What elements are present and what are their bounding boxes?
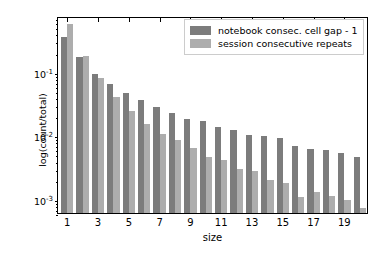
x-tick-label: 11 bbox=[215, 218, 228, 228]
x-axis-label: size bbox=[57, 232, 368, 243]
y-tick-mark-minor bbox=[56, 171, 58, 172]
x-tick-label: 19 bbox=[338, 218, 351, 228]
bar-session-5 bbox=[129, 111, 135, 213]
y-tick-mark-minor bbox=[56, 107, 58, 108]
legend-swatch-icon bbox=[190, 26, 211, 35]
x-tick-mark bbox=[129, 18, 130, 22]
y-tick-mark bbox=[55, 201, 59, 202]
x-tick-label: 1 bbox=[64, 218, 70, 228]
y-tick-mark bbox=[55, 74, 59, 75]
y-tick-mark-minor bbox=[56, 215, 58, 216]
y-tick-mark-minor bbox=[56, 207, 58, 208]
x-tick-label: 17 bbox=[307, 218, 320, 228]
bar-session-11 bbox=[221, 160, 227, 213]
legend-label: session consecutive repeats bbox=[218, 39, 352, 49]
x-tick-label: 9 bbox=[187, 218, 193, 228]
bar-session-6 bbox=[144, 124, 150, 213]
y-tick-mark-minor bbox=[56, 140, 58, 141]
bar-session-3 bbox=[98, 78, 104, 213]
y-tick-mark bbox=[55, 137, 59, 138]
bar-session-14 bbox=[267, 180, 273, 213]
bar-session-17 bbox=[314, 192, 320, 213]
y-tick-mark-minor bbox=[56, 147, 58, 148]
bar-session-16 bbox=[298, 197, 304, 213]
y-tick-mark-minor bbox=[56, 29, 58, 30]
y-tick-mark-minor bbox=[56, 118, 58, 119]
bar-session-2 bbox=[83, 56, 89, 213]
legend-label: notebook consec. cell gap - 1 bbox=[218, 26, 357, 36]
y-tick-mark-minor bbox=[56, 84, 58, 85]
y-tick-mark-minor bbox=[56, 55, 58, 56]
y-tick-mark-minor bbox=[56, 77, 58, 78]
legend-item-1: session consecutive repeats bbox=[190, 37, 357, 50]
x-tick-label: 13 bbox=[246, 218, 259, 228]
figure-canvas: log(count/total) 10-110-210-3 1357911131… bbox=[0, 0, 378, 260]
x-tick-mark bbox=[160, 18, 161, 22]
y-tick-mark-minor bbox=[56, 143, 58, 144]
bar-session-12 bbox=[237, 169, 243, 213]
y-tick-mark-minor bbox=[56, 88, 58, 89]
y-tick-mark-minor bbox=[56, 35, 58, 36]
y-tick-mark-minor bbox=[56, 151, 58, 152]
y-tick-mark-minor bbox=[56, 163, 58, 164]
x-tick-label: 3 bbox=[95, 218, 101, 228]
y-tick-mark-minor bbox=[56, 24, 58, 25]
bar-session-8 bbox=[175, 140, 181, 213]
bar-session-7 bbox=[160, 134, 166, 213]
bar-session-10 bbox=[206, 157, 212, 213]
bar-session-9 bbox=[190, 148, 196, 213]
bar-session-13 bbox=[252, 171, 258, 213]
y-tick-mark-minor bbox=[56, 211, 58, 212]
legend-item-0: notebook consec. cell gap - 1 bbox=[190, 24, 357, 37]
y-tick-mark-minor bbox=[56, 20, 58, 21]
y-tick-mark-minor bbox=[56, 93, 58, 94]
bar-session-19 bbox=[344, 200, 350, 213]
bar-session-18 bbox=[329, 196, 335, 213]
chart-legend: notebook consec. cell gap - 1 session co… bbox=[184, 19, 364, 55]
bar-session-4 bbox=[113, 97, 119, 213]
x-tick-label: 15 bbox=[276, 218, 289, 228]
y-tick-mark-minor bbox=[56, 99, 58, 100]
x-tick-label: 7 bbox=[156, 218, 162, 228]
y-tick-mark-minor bbox=[56, 204, 58, 205]
bar-session-20 bbox=[360, 208, 366, 213]
y-tick-mark-minor bbox=[56, 43, 58, 44]
x-tick-mark bbox=[67, 18, 68, 22]
legend-swatch-icon bbox=[190, 39, 211, 48]
bar-notebook-20 bbox=[354, 157, 360, 213]
y-tick-mark-minor bbox=[56, 182, 58, 183]
x-tick-mark bbox=[98, 18, 99, 22]
x-tick-label: 5 bbox=[126, 218, 132, 228]
y-tick-mark-minor bbox=[56, 156, 58, 157]
y-tick-mark-minor bbox=[56, 80, 58, 81]
bar-session-15 bbox=[283, 183, 289, 213]
bar-session-1 bbox=[67, 24, 73, 213]
